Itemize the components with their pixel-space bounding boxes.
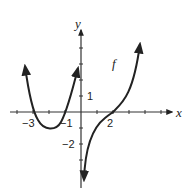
- x-tick-label-2: 2: [107, 117, 113, 129]
- x-tick-label-neg3: −3: [22, 117, 35, 129]
- function-label: f: [112, 56, 118, 71]
- function-graph: y x f −3 −1 2 1 −2: [0, 0, 194, 193]
- x-axis-label: x: [175, 105, 182, 120]
- y-tick-label-neg2: −2: [62, 138, 75, 150]
- y-tick-label-1: 1: [87, 90, 93, 102]
- x-tick-label-neg1: −1: [60, 117, 73, 129]
- y-axis-label: y: [73, 16, 81, 31]
